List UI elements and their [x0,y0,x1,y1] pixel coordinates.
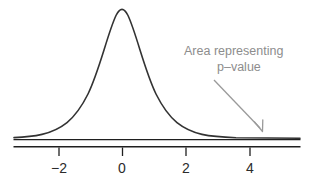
annotation-line-2: p–value [217,60,261,74]
p-value-normal-curve-figure: −2 0 2 4 Area representing p–value [0,0,314,186]
plot-canvas [0,0,314,186]
tick-label-neg2: −2 [39,160,79,176]
tick-label-2: 2 [166,160,206,176]
annotation-line-1: Area representing [184,44,283,58]
p-value-arrow-head [255,120,263,132]
tick-label-0: 0 [102,160,142,176]
tick-label-4: 4 [230,160,270,176]
p-value-arrow-shaft [214,80,260,128]
